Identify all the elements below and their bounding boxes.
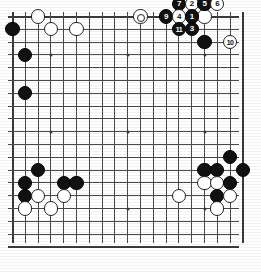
white-stone[interactable]	[57, 189, 71, 203]
grid-line-horizontal	[8, 246, 239, 248]
white-stone[interactable]	[172, 189, 186, 203]
black-stone[interactable]	[69, 176, 83, 190]
white-stone[interactable]	[31, 189, 45, 203]
grid-line-horizontal	[8, 221, 239, 222]
star-point	[126, 53, 129, 56]
white-stone[interactable]	[133, 9, 147, 23]
black-stone[interactable]	[18, 176, 32, 190]
black-stone[interactable]	[223, 176, 237, 190]
move-number-label: 1	[186, 10, 198, 22]
numbered-stone-11[interactable]: 11	[172, 22, 186, 36]
numbered-stone-10[interactable]: 10	[223, 35, 237, 49]
white-stone[interactable]	[197, 9, 211, 23]
move-number-label: 10	[224, 36, 236, 48]
star-point	[126, 130, 129, 133]
move-number-label: 4	[173, 10, 185, 22]
star-point	[49, 53, 52, 56]
numbered-stone-6[interactable]: 6	[210, 0, 224, 11]
board-container: 8725694111310	[0, 0, 261, 272]
star-point	[49, 130, 52, 133]
numbered-stone-3[interactable]: 3	[185, 22, 199, 36]
black-stone[interactable]	[5, 22, 19, 36]
white-stone[interactable]	[223, 189, 237, 203]
black-stone[interactable]	[31, 163, 45, 177]
go-board[interactable]: 8725694111310	[8, 12, 253, 264]
star-point	[203, 53, 206, 56]
black-stone[interactable]	[18, 86, 32, 100]
white-stone[interactable]	[18, 201, 32, 215]
white-stone[interactable]	[31, 9, 45, 23]
move-number-label: 6	[211, 0, 223, 10]
white-stone[interactable]	[69, 22, 83, 36]
star-point	[203, 130, 206, 133]
black-stone[interactable]	[18, 48, 32, 62]
move-number-label: 3	[186, 23, 198, 35]
move-number-label: 9	[160, 10, 172, 22]
grid-line-vertical	[242, 12, 244, 243]
white-stone[interactable]	[44, 22, 58, 36]
black-stone[interactable]	[236, 163, 250, 177]
grid-line-horizontal	[8, 234, 239, 235]
black-stone[interactable]	[197, 35, 211, 49]
move-number-label: 5	[198, 0, 210, 10]
move-number-label: 11	[173, 23, 185, 35]
white-stone[interactable]	[44, 201, 58, 215]
star-point	[203, 207, 206, 210]
white-stone[interactable]	[210, 201, 224, 215]
go-diagram-screen: 8725694111310	[0, 0, 261, 272]
star-point	[126, 207, 129, 210]
black-stone[interactable]	[223, 150, 237, 164]
